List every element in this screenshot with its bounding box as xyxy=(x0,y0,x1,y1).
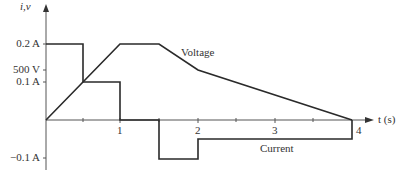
x-tick-label-1: 1 xyxy=(117,124,123,136)
x-axis-label: t (s) xyxy=(378,113,395,125)
voltage-annotation: Voltage xyxy=(181,46,214,58)
y-axis-arrow-icon xyxy=(43,4,49,12)
x-tick-label-3: 3 xyxy=(272,124,278,136)
current-series xyxy=(46,44,352,159)
x-tick-label-2: 2 xyxy=(195,124,201,136)
y-tick-label-neg0.1A: −0.1 A xyxy=(0,151,40,163)
y-tick-label-500V: 500 V xyxy=(0,63,40,75)
x-axis-arrow-icon xyxy=(365,117,374,123)
y-tick-label-0.1A: 0.1 A xyxy=(0,75,40,87)
y-axis-label: i,v xyxy=(20,0,31,12)
x-tick-label-4: 4 xyxy=(356,124,362,136)
chart-canvas xyxy=(0,0,403,177)
y-tick-label-0.2A: 0.2 A xyxy=(0,37,40,49)
current-annotation: Current xyxy=(260,142,294,154)
